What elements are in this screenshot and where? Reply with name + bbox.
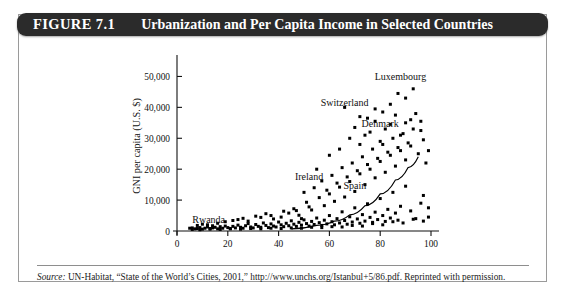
annotation-luxembourg: Luxembourg <box>375 71 426 82</box>
data-point <box>318 196 321 199</box>
data-point <box>381 214 384 217</box>
data-point <box>422 194 425 197</box>
data-point <box>389 154 392 157</box>
data-point <box>336 182 339 185</box>
data-point <box>381 111 384 114</box>
data-point <box>275 225 278 228</box>
data-point <box>399 149 402 152</box>
x-tick-label: 100 <box>424 239 438 247</box>
data-point <box>242 217 245 220</box>
data-point <box>300 224 303 227</box>
data-point <box>427 206 430 209</box>
data-point <box>391 191 394 194</box>
data-point <box>229 227 232 230</box>
data-point <box>422 138 425 141</box>
data-point <box>358 172 361 175</box>
data-point <box>198 228 201 231</box>
data-point <box>328 192 331 195</box>
x-tick-label: 20 <box>223 239 233 247</box>
data-point <box>394 114 397 117</box>
data-point <box>303 191 306 194</box>
data-point <box>328 214 331 217</box>
data-point <box>310 220 313 223</box>
data-point <box>287 212 290 215</box>
data-point <box>231 219 234 222</box>
data-point <box>419 202 422 205</box>
data-point <box>353 206 356 209</box>
annotation-switzerland: Switzerland <box>321 97 369 108</box>
y-tick-label: 10,000 <box>144 196 170 206</box>
data-point <box>363 134 366 137</box>
data-point <box>351 221 354 224</box>
y-tick-label: 0 <box>165 227 170 237</box>
data-point <box>259 227 262 230</box>
data-point <box>351 224 354 227</box>
scatter-points <box>188 87 430 231</box>
data-point <box>341 225 344 228</box>
annotation-spain: Spain <box>343 180 366 191</box>
data-point <box>280 227 283 230</box>
data-point <box>374 176 377 179</box>
data-point <box>295 225 298 228</box>
data-point <box>369 168 372 171</box>
data-point <box>346 175 349 178</box>
data-point <box>318 221 321 224</box>
data-point <box>234 226 237 229</box>
data-point <box>336 217 339 220</box>
data-point <box>249 227 252 230</box>
y-axis-title: GNI per capita (U.S. $) <box>131 98 143 194</box>
x-tick-label: 0 <box>175 239 180 247</box>
data-point <box>341 166 344 169</box>
data-point <box>325 189 328 192</box>
source-label: Source: <box>37 272 66 282</box>
data-point <box>191 228 194 231</box>
data-point <box>330 225 333 228</box>
data-point <box>323 204 326 207</box>
figure-number: FIGURE 7.1 <box>33 16 115 33</box>
data-point <box>384 220 387 223</box>
data-point <box>239 228 242 231</box>
y-tick-label: 20,000 <box>144 165 170 175</box>
data-point <box>402 221 405 224</box>
annotation-ireland: Ireland <box>295 171 323 182</box>
data-point <box>236 218 239 221</box>
data-point <box>313 186 316 189</box>
data-point <box>308 205 311 208</box>
data-point <box>412 128 415 131</box>
data-point <box>361 155 364 158</box>
data-point <box>297 221 300 224</box>
data-point <box>379 160 382 163</box>
data-point <box>409 145 412 148</box>
data-point <box>391 220 394 223</box>
data-point <box>333 200 336 203</box>
data-point <box>343 196 346 199</box>
data-point <box>374 211 377 214</box>
data-point <box>371 148 374 151</box>
data-point <box>417 152 420 155</box>
x-tick-label: 80 <box>376 239 386 247</box>
data-point <box>338 186 341 189</box>
data-point <box>269 227 272 230</box>
figure-card: 010,00020,00030,00040,00050,000020406080… <box>18 14 547 282</box>
data-point <box>351 162 354 165</box>
source-text: UN-Habitat, “State of the World’s Cities… <box>66 272 506 282</box>
data-point <box>338 221 341 224</box>
data-point <box>315 217 318 220</box>
data-point <box>320 226 323 229</box>
data-point <box>379 140 382 143</box>
data-point <box>348 137 351 140</box>
data-point <box>396 92 399 95</box>
data-point <box>219 228 222 231</box>
source-divider <box>37 265 529 266</box>
data-point <box>404 97 407 100</box>
data-point <box>409 209 412 212</box>
data-point <box>396 219 399 222</box>
data-point <box>404 185 407 188</box>
data-point <box>341 210 344 213</box>
data-point <box>376 157 379 160</box>
data-point <box>361 225 364 228</box>
data-point <box>419 129 422 132</box>
data-point <box>280 216 283 219</box>
data-point <box>407 141 410 144</box>
data-point <box>409 118 412 121</box>
